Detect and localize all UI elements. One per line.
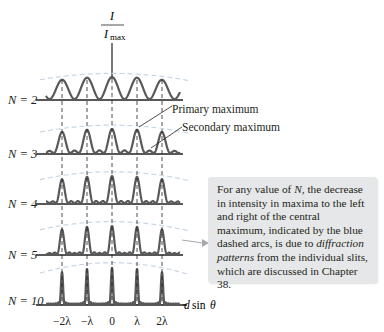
intensity-axis-label: I I max <box>101 9 126 79</box>
svg-text:max: max <box>110 32 126 42</box>
row-label-n5: N = 5 <box>7 248 37 262</box>
explanation-note: For any value of N, the decrease in inte… <box>208 177 377 283</box>
intensity-curve <box>46 268 180 304</box>
intensity-curve <box>46 176 180 203</box>
secondary-maximum-label: Secondary maximum <box>182 121 280 134</box>
svg-text:2λ: 2λ <box>156 315 168 327</box>
primary-maximum-label: Primary maximum <box>172 103 259 116</box>
svg-text:θ: θ <box>210 299 216 311</box>
svg-text:d: d <box>184 299 190 311</box>
x-tick-labels: −2λ −λ 0 λ 2λ <box>53 315 168 327</box>
row-label-n3: N = 3 <box>7 147 37 161</box>
callout-pointer <box>182 239 209 247</box>
svg-text:−λ: −λ <box>81 315 93 327</box>
row-labels: N = 2 N = 3 N = 4 N = 5 N = 10 <box>7 93 44 308</box>
svg-text:0: 0 <box>109 315 115 327</box>
svg-text:I: I <box>109 9 115 23</box>
svg-text:−2λ: −2λ <box>53 315 71 327</box>
x-axis-label: d sin θ <box>184 299 216 311</box>
svg-text:sin: sin <box>192 299 206 311</box>
intensity-curve <box>46 77 180 99</box>
svg-text:I: I <box>103 27 109 41</box>
intensity-curve <box>46 129 180 153</box>
row-label-n2: N = 2 <box>7 93 37 107</box>
annotations: Primary maximum Secondary maximum <box>139 103 280 148</box>
intensity-plots <box>36 73 188 305</box>
row-label-n10: N = 10 <box>7 294 44 308</box>
row-label-n4: N = 4 <box>7 197 37 211</box>
intensity-curve <box>46 226 180 254</box>
svg-text:λ: λ <box>134 315 140 327</box>
